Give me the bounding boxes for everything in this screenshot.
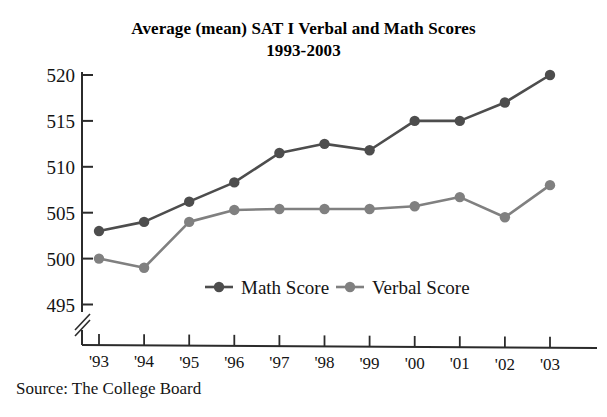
legend-item-label: Verbal Score	[372, 277, 470, 298]
chart-legend: Math ScoreVerbal Score	[205, 277, 470, 298]
series-line	[99, 185, 550, 268]
data-point-marker	[229, 205, 239, 215]
y-tick-label: 510	[47, 157, 76, 178]
x-tick-label: '97	[269, 353, 290, 372]
y-axis-ticks: 495500505510515520	[47, 65, 94, 316]
legend-marker-icon	[345, 282, 355, 292]
y-tick-label: 495	[47, 295, 76, 316]
x-tick-label: '00	[405, 354, 425, 373]
x-tick-label: '96	[224, 353, 244, 372]
legend-marker-icon	[214, 282, 224, 292]
data-point-marker	[319, 139, 329, 149]
source-note: Source: The College Board	[16, 379, 201, 399]
x-tick-label: '03	[540, 355, 560, 374]
x-tick-label: '01	[450, 354, 470, 373]
data-point-marker	[139, 217, 149, 227]
data-point-marker	[364, 145, 374, 155]
data-point-marker	[410, 116, 420, 126]
x-axis-line	[82, 345, 597, 348]
x-tick-label: '02	[495, 355, 515, 374]
x-tick-label: '94	[134, 352, 155, 371]
y-tick-label: 505	[47, 203, 76, 224]
x-tick-label: '99	[360, 354, 380, 373]
line-chart-plot: 495500505510515520 '93'94'95'96'97'98'99…	[0, 0, 607, 417]
data-point-marker	[319, 204, 329, 214]
data-point-marker	[545, 70, 555, 80]
data-point-marker	[364, 204, 374, 214]
x-tick-label: '95	[179, 353, 199, 372]
y-tick-label: 500	[47, 249, 76, 270]
data-point-marker	[184, 217, 194, 227]
data-point-marker	[500, 97, 510, 107]
data-point-marker	[455, 192, 465, 202]
x-axis-ticks: '93'94'95'96'97'98'99'00'01'02'03	[89, 334, 560, 374]
data-point-marker	[274, 148, 284, 158]
data-point-marker	[410, 201, 420, 211]
x-tick-label: '98	[314, 353, 334, 372]
y-tick-label: 520	[47, 65, 76, 86]
x-tick-label: '93	[89, 352, 109, 371]
data-point-marker	[455, 116, 465, 126]
series-layer	[94, 70, 555, 273]
data-point-marker	[545, 180, 555, 190]
data-point-marker	[184, 196, 194, 206]
y-tick-label: 515	[47, 111, 76, 132]
legend-item-label: Math Score	[241, 277, 329, 298]
data-point-marker	[229, 177, 239, 187]
data-point-marker	[500, 212, 510, 222]
chart-container: Average (mean) SAT I Verbal and Math Sco…	[0, 0, 607, 417]
data-point-marker	[274, 204, 284, 214]
data-point-marker	[139, 263, 149, 273]
data-point-marker	[94, 253, 104, 263]
data-point-marker	[94, 226, 104, 236]
